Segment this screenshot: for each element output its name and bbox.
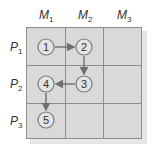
- node-5: 5: [38, 112, 54, 128]
- node-2: 2: [76, 39, 92, 55]
- svg-text:1: 1: [43, 41, 49, 53]
- node-1: 1: [38, 39, 54, 55]
- svg-text:5: 5: [43, 114, 49, 126]
- svg-text:3: 3: [81, 78, 87, 90]
- node-4: 4: [38, 76, 54, 92]
- svg-text:2: 2: [81, 41, 87, 53]
- flow-overlay: 1 2 3 4 5: [0, 0, 154, 152]
- node-3: 3: [76, 76, 92, 92]
- svg-text:4: 4: [43, 78, 49, 90]
